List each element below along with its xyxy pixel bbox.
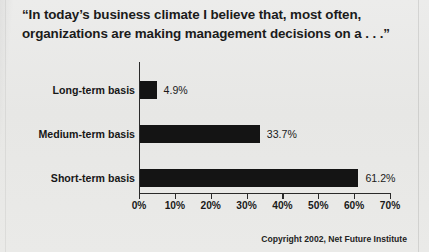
x-axis-tick: [139, 194, 140, 199]
x-axis-tick-label: 30%: [236, 200, 256, 211]
x-axis-tick-label: 10%: [165, 200, 185, 211]
x-axis-tick: [175, 194, 176, 199]
copyright-notice: Copyright 2002, Net Future Institute: [261, 234, 407, 244]
x-axis-tick-label: 0%: [132, 200, 147, 211]
x-axis-tick: [211, 194, 212, 199]
x-axis-tick: [282, 194, 283, 199]
x-axis-tick: [390, 194, 391, 199]
x-axis-tick-label: 40%: [272, 200, 292, 211]
bar-chart: Long-term basis 4.9% Medium-term basis 3…: [0, 62, 429, 212]
chart-title: “In today’s business climate I believe t…: [22, 5, 414, 43]
category-label: Medium-term basis: [38, 128, 135, 140]
chart-title-line-2: organizations are making management deci…: [22, 24, 414, 43]
x-axis-tick-label: 20%: [201, 200, 221, 211]
scanned-page: “In today’s business climate I believe t…: [0, 0, 429, 252]
x-axis-tick: [318, 194, 319, 199]
value-label: 4.9%: [164, 84, 188, 96]
category-label: Long-term basis: [53, 84, 135, 96]
x-axis-tick-label: 50%: [308, 200, 328, 211]
x-axis-tick-label: 70%: [380, 200, 400, 211]
bar: [139, 81, 157, 99]
y-axis-line: [139, 62, 140, 194]
x-axis-tick: [354, 194, 355, 199]
category-label: Short-term basis: [51, 172, 135, 184]
bar-row: Long-term basis 4.9%: [0, 68, 429, 112]
bar: [139, 169, 358, 187]
x-axis-tick-label: 60%: [344, 200, 364, 211]
bar-row: Medium-term basis 33.7%: [0, 112, 429, 156]
value-label: 61.2%: [365, 172, 395, 184]
chart-title-line-1: “In today’s business climate I believe t…: [22, 5, 414, 24]
x-axis-tick: [247, 194, 248, 199]
bar: [139, 125, 260, 143]
value-label: 33.7%: [267, 128, 297, 140]
